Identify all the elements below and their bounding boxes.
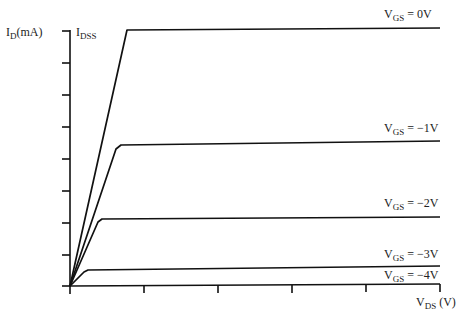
label-vgs-minus-2: VGS = −2V <box>384 196 439 212</box>
x-axis-label: VDS (V) <box>416 295 456 311</box>
label-vgs-minus-1: VGS = −1V <box>384 121 439 137</box>
x-axis <box>70 284 440 286</box>
label-vgs-0: VGS = 0V <box>384 7 432 23</box>
y-axis-ticks <box>62 31 70 286</box>
jfet-characteristic-chart: ID(mA) IDSS VDS (V) VGS = 0V VGS = −1V V… <box>0 0 463 324</box>
idss-label: IDSS <box>76 25 97 41</box>
curve-vgs-minus-1 <box>70 141 440 286</box>
label-vgs-minus-4: VGS = −4V <box>384 268 439 284</box>
y-axis-label: ID(mA) <box>6 25 43 41</box>
label-vgs-minus-3: VGS = −3V <box>384 247 439 263</box>
